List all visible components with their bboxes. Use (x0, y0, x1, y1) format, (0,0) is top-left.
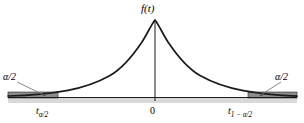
density-function-label: f(t) (141, 3, 154, 14)
lower-critical-value-subscript: α/2 (39, 111, 48, 119)
right-tail-area-label: α/2 (275, 72, 288, 82)
upper-critical-value-subscript: 1 − α/2 (231, 111, 252, 119)
center-tick-label: 0 (150, 106, 155, 116)
lower-critical-value-label: tα/2 (36, 106, 48, 119)
left-tail-area-label: α/2 (3, 72, 16, 82)
upper-critical-value-label: t1 − α/2 (228, 106, 252, 119)
density-curve (8, 20, 297, 96)
t-distribution-figure: f(t) 0 α/2 α/2 tα/2 t1 − α/2 (0, 0, 304, 123)
